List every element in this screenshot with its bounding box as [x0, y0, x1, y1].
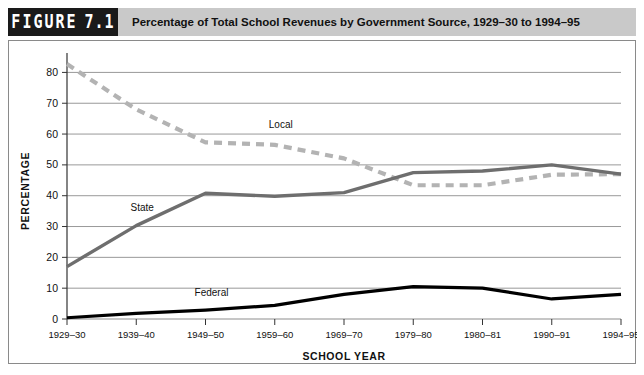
series-line-federal: [67, 287, 621, 318]
chart-plot-area: 01020304050607080PERCENTAGE1929–301939–4…: [9, 41, 637, 365]
figure-tag-number: 7.1: [85, 11, 115, 34]
x-tick-label: 1949–50: [187, 329, 224, 340]
x-tick-label: 1979–80: [395, 329, 432, 340]
x-tick-label: 1959–60: [256, 329, 293, 340]
y-tick-label: 20: [46, 251, 58, 263]
x-tick-label: 1990–91: [533, 329, 570, 340]
x-tick-label: 1929–30: [49, 329, 86, 340]
x-axis: 1929–301939–401949–501959–601969–701979–…: [49, 319, 637, 340]
y-tick-label: 40: [46, 189, 58, 201]
y-axis-title: PERCENTAGE: [19, 152, 31, 230]
x-tick-label: 1994–95: [603, 329, 637, 340]
figure-page: FIGURE 7.1 Percentage of Total School Re…: [0, 0, 644, 375]
figure-tag-word: FIGURE: [11, 11, 77, 34]
series-line-state: [67, 165, 621, 267]
line-chart: 01020304050607080PERCENTAGE1929–301939–4…: [9, 41, 637, 365]
series-label-local: Local: [269, 119, 293, 130]
y-tick-label: 0: [52, 313, 58, 325]
series-label-state: State: [131, 202, 155, 213]
x-axis-title: SCHOOL YEAR: [302, 350, 385, 362]
x-tick-label: 1969–70: [326, 329, 363, 340]
y-tick-label: 10: [46, 282, 58, 294]
y-tick-label: 50: [46, 158, 58, 170]
y-tick-label: 30: [46, 220, 58, 232]
y-tick-label: 70: [46, 97, 58, 109]
x-tick-label: 1980–81: [464, 329, 501, 340]
y-tick-label: 60: [46, 128, 58, 140]
figure-title: Percentage of Total School Revenues by G…: [118, 8, 636, 36]
series-label-federal: Federal: [195, 287, 229, 298]
chart-frame: 01020304050607080PERCENTAGE1929–301939–4…: [8, 40, 636, 364]
figure-header: FIGURE 7.1 Percentage of Total School Re…: [8, 8, 636, 36]
y-tick-label: 80: [46, 66, 58, 78]
figure-tag: FIGURE 7.1: [8, 8, 118, 36]
x-tick-label: 1939–40: [118, 329, 155, 340]
